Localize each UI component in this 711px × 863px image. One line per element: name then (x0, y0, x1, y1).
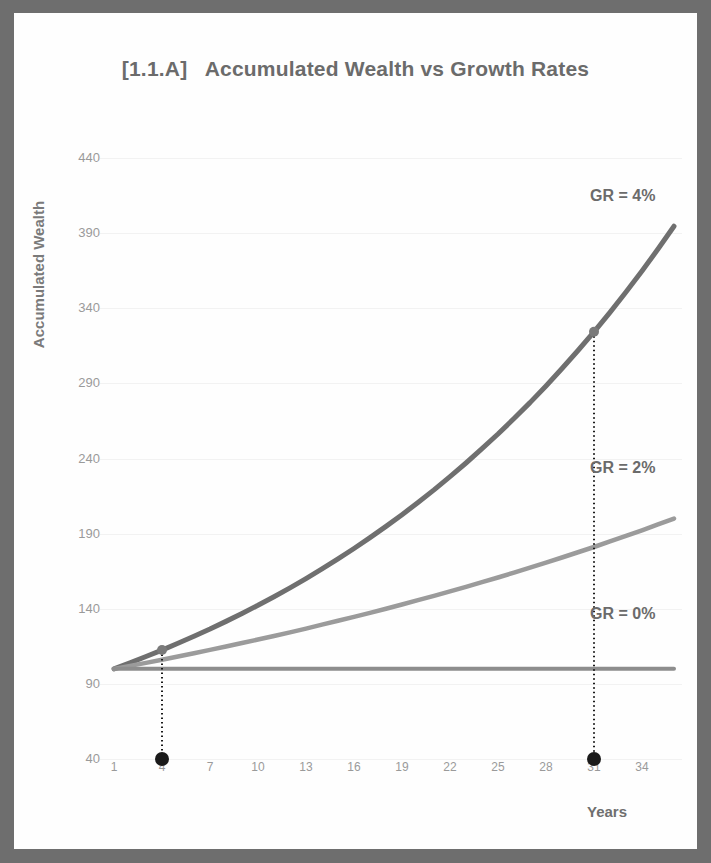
marker-year-31-axis-dot (587, 752, 601, 766)
series-line-gr-2 (114, 519, 674, 669)
marker-year-31-curve-marker (589, 327, 599, 337)
marker-year-4-axis-dot (155, 752, 169, 766)
series-label-gr-0: GR = 0% (590, 605, 655, 623)
chart-canvas: [1.1.A] Accumulated Wealth vs Growth Rat… (14, 13, 697, 849)
marker-year-4-curve-marker (157, 645, 167, 655)
image-frame-border: [1.1.A] Accumulated Wealth vs Growth Rat… (0, 0, 711, 863)
series-label-gr-2: GR = 2% (590, 459, 655, 477)
series-label-gr-4: GR = 4% (590, 187, 655, 205)
plot-area (14, 13, 697, 849)
series-line-gr-4 (114, 226, 674, 669)
